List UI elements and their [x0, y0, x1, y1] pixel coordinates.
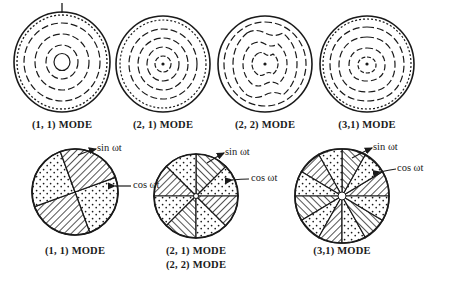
top-panel-mode-1-1 — [14, 3, 110, 112]
caption-bottom-mode-2-1: (2, 1) MODE — [148, 245, 244, 256]
center-dot — [161, 62, 164, 65]
nodal-boundary-outer — [14, 12, 110, 112]
nodal-circle-3 — [46, 45, 78, 79]
caption-top-mode-3-1: (3,1) MODE — [320, 119, 414, 130]
cos-leader-line — [232, 179, 249, 180]
caption-bottom-mode-3-1: (3,1) MODE — [294, 245, 390, 256]
bottom-panel-mode-2 — [154, 153, 249, 238]
top-panel-mode-2-1 — [116, 16, 210, 112]
label-sin-omega-t-panel-3: sin ωt — [373, 141, 398, 152]
top-panel-mode-3-1 — [320, 16, 414, 112]
center-dot — [365, 62, 368, 65]
label-cos-omega-t-panel-1: cos ωt — [133, 179, 159, 190]
center-node — [338, 192, 346, 200]
label-sin-omega-t-panel-1: sin ωt — [97, 142, 122, 153]
center-node — [194, 194, 199, 199]
nodal-circle-2 — [35, 34, 89, 90]
caption-bottom-mode-2-2: (2, 2) MODE — [148, 259, 244, 270]
caption-bottom-mode-1-1: (1, 1) MODE — [27, 245, 123, 256]
caption-top-mode-2-2: (2, 2) MODE — [218, 119, 312, 130]
nodal-circle-4 — [54, 54, 70, 71]
caption-top-mode-2-1: (2, 1) MODE — [116, 119, 210, 130]
label-cos-omega-t-panel-2: cos ωt — [251, 172, 277, 183]
figure-mode-shapes: (1, 1) MODE (2, 1) MODE (2, 2) MODE (3,1… — [0, 0, 461, 296]
bottom-panel-mode-1-1 — [32, 149, 131, 235]
label-sin-omega-t-panel-2: sin ωt — [225, 146, 250, 157]
nodal-boundary-inner — [17, 15, 107, 109]
caption-top-mode-1-1: (1, 1) MODE — [14, 119, 110, 130]
center-dot — [263, 62, 266, 65]
label-cos-omega-t-panel-3: cos ωt — [397, 162, 423, 173]
bottom-panel-mode-3-1 — [295, 148, 396, 243]
top-panel-mode-2-2 — [218, 16, 312, 112]
